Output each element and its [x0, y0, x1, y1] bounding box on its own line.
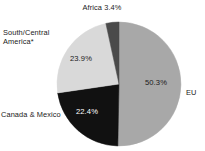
pie-chart-figure: Africa 3.4% South/Central America* Canad…	[0, 0, 205, 151]
pie-label-eu: EU	[186, 88, 204, 97]
pie-value-eu: 50.3%	[141, 78, 171, 87]
pie-chart-svg	[0, 0, 205, 151]
pie-label-south-central-america: South/Central America*	[3, 28, 65, 46]
pie-label-africa: Africa 3.4%	[56, 3, 148, 12]
pie-value-south-central-america: 23.9%	[64, 54, 98, 63]
pie-label-canada-mexico: Canada & Mexico	[1, 110, 67, 119]
pie-value-canada-mexico: 22.4%	[69, 107, 105, 116]
